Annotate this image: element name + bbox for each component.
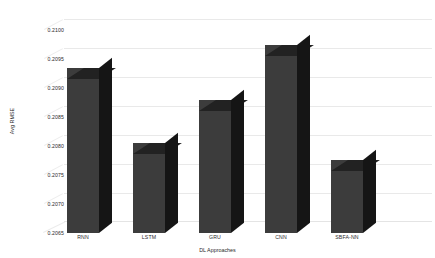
bar-sbfa-nn [331, 160, 363, 233]
y-axis-title: Avg RMSE [9, 96, 15, 146]
x-axis-tick-label: RNN [53, 234, 113, 240]
x-axis-tick-label: LSTM [119, 234, 179, 240]
y-axis-tick-label: 0.2085 [22, 114, 64, 120]
x-axis-tick-label: CNN [251, 234, 311, 240]
gridline [64, 106, 432, 107]
y-axis-tick-label: 0.2090 [22, 85, 64, 91]
bar-gru [199, 100, 231, 233]
bar-lstm [133, 143, 165, 233]
x-axis-tick-label: SBFA-NN [317, 234, 377, 240]
plot-area: 0.2100 0.2095 0.2090 0.2085 0.2080 0.207… [0, 0, 435, 258]
bar-side-face [231, 90, 244, 233]
bar-chart: 0.2100 0.2095 0.2090 0.2085 0.2080 0.207… [0, 0, 435, 258]
y-axis-tick-label: 0.2070 [22, 201, 64, 207]
y-axis-tick-label: 0.2095 [22, 56, 64, 62]
bar-rnn [67, 68, 99, 233]
gridline [64, 164, 432, 165]
gridline [64, 193, 432, 194]
bar-cnn [265, 45, 297, 233]
bar-side-face [99, 58, 112, 233]
bar-side-face [297, 35, 310, 233]
axis-floor-line [64, 221, 432, 222]
bar-side-face [165, 133, 178, 233]
gridline [64, 48, 432, 49]
gridline [64, 135, 432, 136]
x-axis-tick-label: GRU [185, 234, 245, 240]
bar-side-face [363, 150, 376, 233]
gridline [64, 19, 432, 20]
x-axis-title: DL Approaches [0, 247, 435, 253]
y-axis-tick-label: 0.2080 [22, 143, 64, 149]
y-axis-tick-label: 0.2075 [22, 172, 64, 178]
gridline [64, 77, 432, 78]
y-axis-tick-label: 0.2100 [22, 27, 64, 33]
